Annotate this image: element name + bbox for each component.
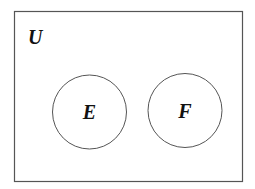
venn-diagram: U E F bbox=[0, 0, 255, 189]
universe-label: U bbox=[28, 26, 44, 48]
universe-rectangle bbox=[15, 12, 243, 182]
set-e-label: E bbox=[82, 101, 96, 123]
set-f-label: F bbox=[177, 100, 192, 122]
